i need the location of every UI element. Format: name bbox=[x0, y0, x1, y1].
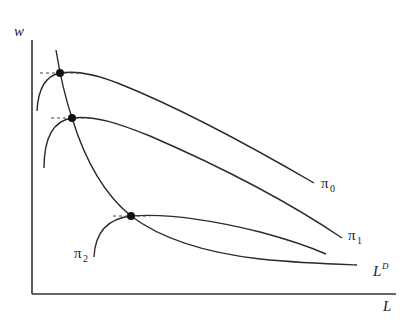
y-axis-label: w bbox=[14, 23, 24, 39]
iso-profit-curve-pi0 bbox=[37, 72, 314, 183]
label-pi1-base: π bbox=[348, 227, 356, 243]
label-labor-demand: L D bbox=[372, 261, 389, 279]
iso-profit-curve-pi1 bbox=[44, 117, 342, 238]
label-pi2: π 2 bbox=[74, 245, 88, 264]
tangency-point-pi2 bbox=[127, 212, 135, 220]
label-pi0-base: π bbox=[321, 175, 329, 191]
label-pi2-base: π bbox=[74, 245, 82, 261]
label-pi2-sub: 2 bbox=[83, 253, 88, 264]
tangency-point-pi1 bbox=[68, 114, 76, 122]
labor-demand-diagram: w L π 0 π 1 π 2 L D bbox=[0, 0, 416, 331]
tangency-point-pi0 bbox=[56, 69, 64, 77]
label-ld-base: L bbox=[372, 263, 381, 279]
x-axis-label: L bbox=[382, 298, 391, 314]
label-pi1: π 1 bbox=[348, 227, 362, 246]
label-pi0-sub: 0 bbox=[330, 183, 335, 194]
label-ld-sup: D bbox=[381, 261, 389, 271]
label-pi1-sub: 1 bbox=[357, 235, 362, 246]
label-pi0: π 0 bbox=[321, 175, 335, 194]
